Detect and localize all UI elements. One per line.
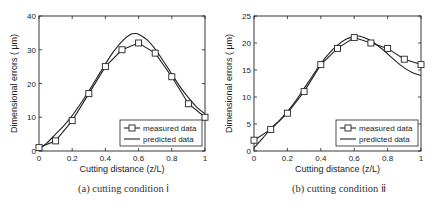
measured-data-point (335, 45, 341, 51)
y-tick-label: 15 (242, 66, 251, 75)
legend-measured-marker (129, 125, 135, 131)
measured-data-point (318, 62, 324, 68)
y-tick-label: 20 (27, 80, 36, 89)
measured-data-point (102, 64, 108, 70)
measured-data-point (301, 89, 307, 95)
y-tick-label: 10 (242, 93, 251, 102)
figure-canvas: 00.20.40.60.81010203040Cutting distance … (0, 0, 438, 208)
x-tick-label: 0 (252, 154, 257, 163)
x-tick-label: 0.4 (315, 154, 327, 163)
measured-data-point (202, 114, 208, 120)
x-tick-label: 1 (203, 154, 208, 163)
x-tick-label: 0.8 (382, 154, 394, 163)
x-axis-label: Cutting distance (z/L) (295, 164, 380, 174)
x-axis-label: Cutting distance (z/L) (79, 164, 164, 174)
caption-a: (a) cutting condition ⅰ (78, 182, 169, 194)
measured-data-point (251, 137, 257, 143)
measured-data-point (152, 50, 158, 56)
measured-data-point (385, 45, 391, 51)
x-tick-label: 0.8 (166, 154, 178, 163)
x-tick-label: 0.6 (349, 154, 361, 163)
measured-data-point (169, 74, 175, 80)
legend-label-predicted: predicted data (359, 135, 410, 144)
measured-data-point (418, 62, 424, 68)
x-tick-label: 1 (419, 154, 424, 163)
measured-data-point (36, 145, 42, 151)
y-tick-label: 5 (247, 120, 252, 129)
y-tick-label: 20 (242, 39, 251, 48)
chart-b: 00.20.40.60.810510152025Cutting distance… (224, 12, 424, 174)
measured-data-point (86, 91, 92, 97)
chart-a: 00.20.40.60.81010203040Cutting distance … (9, 12, 208, 174)
y-tick-label: 30 (27, 46, 36, 55)
y-tick-label: 40 (27, 12, 36, 21)
measured-data-point (284, 110, 290, 116)
x-tick-label: 0.2 (282, 154, 294, 163)
y-tick-label: 25 (242, 12, 251, 21)
y-axis-label: Dimensional errors ( μm) (224, 34, 234, 133)
legend-label-measured: measured data (359, 124, 413, 133)
x-tick-label: 0.6 (133, 154, 145, 163)
measured-data-point (69, 118, 75, 124)
x-tick-label: 0.2 (67, 154, 79, 163)
y-tick-label: 10 (27, 113, 36, 122)
y-axis-label: Dimensional errors ( μm) (9, 34, 19, 133)
measured-data-point (136, 40, 142, 46)
legend-label-predicted: predicted data (143, 135, 194, 144)
measured-data-point (268, 126, 274, 132)
legend-measured-marker (345, 125, 351, 131)
measured-data-point (53, 138, 59, 144)
measured-data-point (368, 40, 374, 46)
measured-data-point (401, 56, 407, 62)
measured-data-point (351, 35, 357, 41)
measured-data-point (185, 101, 191, 107)
measured-data-point (119, 47, 125, 53)
caption-b: (b) cutting condition ⅱ (292, 182, 386, 194)
x-tick-label: 0 (37, 154, 42, 163)
x-tick-label: 0.4 (100, 154, 112, 163)
y-tick-label: 0 (247, 147, 252, 156)
legend-label-measured: measured data (143, 124, 197, 133)
